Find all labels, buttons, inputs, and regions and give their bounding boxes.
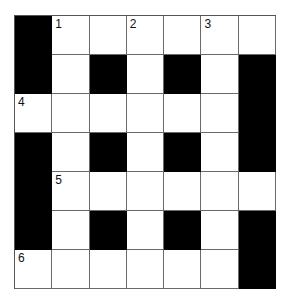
black-cell bbox=[90, 55, 127, 94]
crossword-cell[interactable]: 5 bbox=[52, 172, 89, 211]
crossword-cell[interactable] bbox=[201, 250, 238, 289]
crossword-cell[interactable] bbox=[52, 250, 89, 289]
crossword-cell[interactable]: 3 bbox=[201, 16, 238, 55]
crossword-cell[interactable] bbox=[239, 172, 276, 211]
crossword-cell[interactable] bbox=[201, 94, 238, 133]
crossword-cell[interactable] bbox=[52, 55, 89, 94]
crossword-grid: 123456 bbox=[14, 15, 276, 289]
black-cell bbox=[164, 55, 201, 94]
black-cell bbox=[239, 133, 276, 172]
crossword-cell[interactable] bbox=[90, 16, 127, 55]
black-cell bbox=[90, 211, 127, 250]
clue-number: 3 bbox=[204, 18, 211, 30]
black-cell bbox=[239, 94, 276, 133]
crossword-cell[interactable] bbox=[164, 250, 201, 289]
clue-number: 5 bbox=[55, 174, 62, 186]
crossword-cell[interactable] bbox=[52, 133, 89, 172]
crossword-cell[interactable] bbox=[127, 211, 164, 250]
crossword-cell[interactable] bbox=[127, 94, 164, 133]
crossword-cell[interactable] bbox=[127, 133, 164, 172]
crossword-cell[interactable] bbox=[164, 172, 201, 211]
crossword-cell[interactable] bbox=[201, 55, 238, 94]
crossword-cell[interactable] bbox=[164, 16, 201, 55]
crossword-cell[interactable] bbox=[127, 172, 164, 211]
crossword-cell[interactable] bbox=[127, 55, 164, 94]
crossword-cell[interactable] bbox=[90, 250, 127, 289]
crossword-cell[interactable] bbox=[52, 211, 89, 250]
black-cell bbox=[15, 133, 52, 172]
crossword-cell[interactable] bbox=[52, 94, 89, 133]
crossword-cell[interactable]: 1 bbox=[52, 16, 89, 55]
black-cell bbox=[15, 211, 52, 250]
clue-number: 2 bbox=[130, 18, 137, 30]
clue-number: 6 bbox=[18, 252, 25, 264]
crossword-cell[interactable] bbox=[127, 250, 164, 289]
crossword-cell[interactable] bbox=[90, 172, 127, 211]
black-cell bbox=[239, 211, 276, 250]
crossword-cell[interactable] bbox=[201, 211, 238, 250]
black-cell bbox=[15, 172, 52, 211]
crossword-cell[interactable]: 6 bbox=[15, 250, 52, 289]
black-cell bbox=[239, 250, 276, 289]
black-cell bbox=[164, 133, 201, 172]
crossword-cell[interactable] bbox=[201, 172, 238, 211]
crossword-cell[interactable]: 2 bbox=[127, 16, 164, 55]
black-cell bbox=[90, 133, 127, 172]
clue-number: 4 bbox=[18, 96, 25, 108]
black-cell bbox=[239, 55, 276, 94]
crossword-cell[interactable] bbox=[164, 94, 201, 133]
black-cell bbox=[15, 16, 52, 55]
crossword-cell[interactable] bbox=[90, 94, 127, 133]
black-cell bbox=[15, 55, 52, 94]
black-cell bbox=[164, 211, 201, 250]
crossword-cell[interactable] bbox=[201, 133, 238, 172]
crossword-cell[interactable]: 4 bbox=[15, 94, 52, 133]
crossword-cell[interactable] bbox=[239, 16, 276, 55]
clue-number: 1 bbox=[55, 18, 62, 30]
